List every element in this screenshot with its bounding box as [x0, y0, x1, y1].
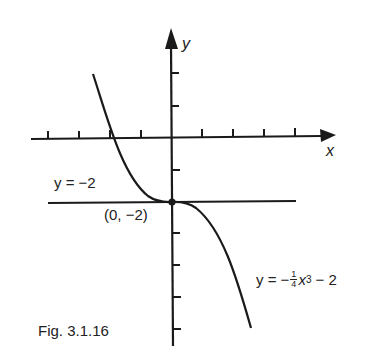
y-axis-label: y: [182, 35, 190, 53]
equation-variable: x: [298, 271, 306, 288]
hline-label: y = −2: [54, 174, 96, 191]
equation-fraction: 1 4: [290, 270, 297, 289]
x-axis: [31, 136, 322, 139]
equation-suffix: − 2: [311, 271, 336, 288]
x-axis-arrow-icon: [320, 129, 336, 142]
y-axis: [171, 44, 173, 346]
figure-caption: Fig. 3.1.16: [38, 322, 109, 339]
equation-label: y = − 1 4 x3 − 2: [256, 270, 337, 289]
equation-prefix: y = −: [256, 271, 289, 288]
point-0-minus-2: [168, 198, 175, 205]
point-label: (0, −2): [104, 206, 148, 223]
x-axis-label: x: [326, 142, 334, 160]
y-axis-arrow-icon: [165, 28, 178, 49]
fraction-denominator: 4: [291, 280, 296, 289]
